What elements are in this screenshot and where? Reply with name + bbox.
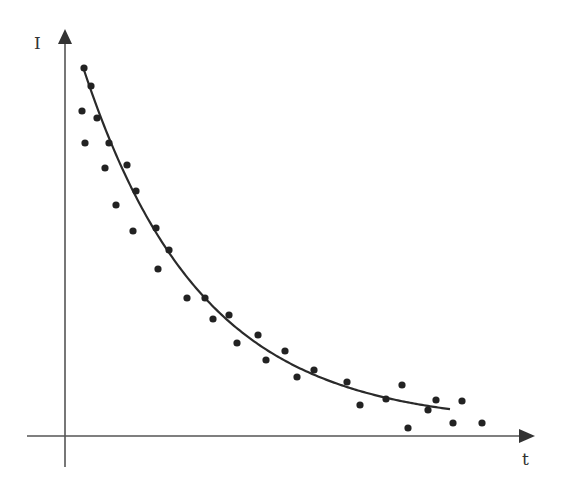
- data-point: [201, 294, 208, 301]
- data-point: [343, 378, 350, 385]
- data-point: [81, 139, 88, 146]
- data-point: [233, 339, 240, 346]
- data-point: [152, 224, 159, 231]
- data-point: [356, 401, 363, 408]
- data-point: [293, 373, 300, 380]
- data-point: [165, 246, 172, 253]
- decay-chart: I t: [0, 0, 562, 486]
- data-point: [458, 397, 465, 404]
- data-point: [382, 395, 389, 402]
- y-axis-label: I: [34, 33, 41, 53]
- data-point: [225, 311, 232, 318]
- data-point: [398, 381, 405, 388]
- data-point: [449, 419, 456, 426]
- data-point: [93, 114, 100, 121]
- data-point: [432, 396, 439, 403]
- data-point: [101, 164, 108, 171]
- data-point: [123, 161, 130, 168]
- data-point: [183, 294, 190, 301]
- data-point: [105, 139, 112, 146]
- data-point: [112, 201, 119, 208]
- data-point: [281, 347, 288, 354]
- x-axis-arrow-icon: [519, 429, 535, 443]
- data-point: [132, 187, 139, 194]
- data-point: [254, 331, 261, 338]
- data-points: [78, 64, 485, 431]
- data-point: [78, 107, 85, 114]
- y-axis-arrow-icon: [58, 29, 72, 44]
- data-point: [424, 406, 431, 413]
- data-point: [129, 227, 136, 234]
- data-point: [310, 366, 317, 373]
- data-point: [87, 82, 94, 89]
- data-point: [262, 356, 269, 363]
- data-point: [404, 424, 411, 431]
- x-axis-label: t: [522, 449, 529, 469]
- data-point: [80, 64, 87, 71]
- data-point: [209, 315, 216, 322]
- data-point: [478, 419, 485, 426]
- data-point: [154, 265, 161, 272]
